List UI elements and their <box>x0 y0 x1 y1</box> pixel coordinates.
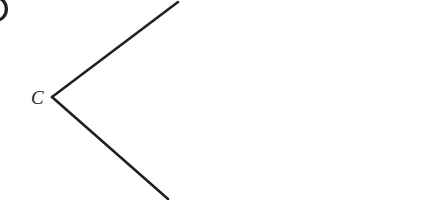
figure-container: C <box>0 0 426 200</box>
figure-background <box>0 0 426 200</box>
geometry-figure-canvas <box>0 0 426 200</box>
vertex-label-c: C <box>31 88 44 107</box>
